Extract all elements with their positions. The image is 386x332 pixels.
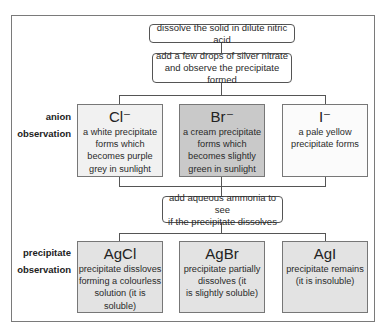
precipitate-desc-line: precipitate remains bbox=[283, 263, 367, 275]
precipitate-symbol: AgI bbox=[283, 245, 367, 263]
step3-line: add aqueous ammonia to see bbox=[163, 192, 282, 216]
anion-desc-line: becomes slightly bbox=[180, 150, 264, 162]
anion-desc-line: a white precipitate bbox=[78, 126, 162, 138]
label-line: observation bbox=[10, 261, 71, 278]
connector-i-top bbox=[325, 95, 326, 104]
anion-desc-line: grey in sunlight bbox=[78, 163, 162, 175]
precipitate-desc-line: forming a colourless bbox=[78, 275, 162, 287]
precipitate-symbol: AgCl bbox=[78, 245, 162, 263]
anion-desc-line: forms which bbox=[180, 138, 264, 150]
precipitate-desc-line: is slightly soluble) bbox=[180, 287, 264, 299]
anion-desc-line: a pale yellow bbox=[283, 126, 367, 138]
precipitate-desc-line: solution (it is soluble) bbox=[78, 287, 162, 311]
precipitate-box-agbr: AgBr precipitate partially dissolves (it… bbox=[179, 241, 265, 313]
anion-observation-label: anion observation bbox=[14, 108, 71, 142]
anion-desc-line: green in sunlight bbox=[180, 163, 264, 175]
label-line: precipitate bbox=[10, 244, 71, 261]
anion-box-bromide: Br⁻ a cream precipitate forms which beco… bbox=[179, 104, 265, 177]
anion-box-chloride: Cl⁻ a white precipitate forms which beco… bbox=[77, 104, 163, 177]
precipitate-desc-line: (it is insoluble) bbox=[283, 275, 367, 287]
step-dissolve-nitric-acid: dissolve the solid in dilute nitric acid bbox=[149, 24, 295, 43]
connector-cl-top bbox=[119, 95, 120, 104]
connector-row2-bar bbox=[119, 233, 326, 234]
step1-text: dissolve the solid in dilute nitric acid bbox=[150, 22, 294, 46]
step-add-aqueous-ammonia: add aqueous ammonia to see if the precip… bbox=[162, 196, 283, 223]
anion-box-iodide: I⁻ a pale yellow precipitate forms bbox=[282, 104, 368, 177]
anion-symbol: Br⁻ bbox=[180, 108, 264, 126]
connector-agcl-top bbox=[119, 233, 120, 241]
anion-symbol: I⁻ bbox=[283, 108, 367, 126]
precipitate-desc-line: precipitate dissloves bbox=[78, 263, 162, 275]
precipitate-box-agcl: AgCl precipitate dissloves forming a col… bbox=[77, 241, 163, 313]
precipitate-desc-line: dissolves (it bbox=[180, 275, 264, 287]
connector-agi-top bbox=[325, 233, 326, 241]
precipitate-observation-label: precipitate observation bbox=[10, 244, 71, 278]
step2-line: and observe the precipitate formed bbox=[153, 62, 291, 86]
step3-line: if the precipitate dissolves bbox=[163, 216, 282, 228]
anion-symbol: Cl⁻ bbox=[78, 108, 162, 126]
anion-desc-line: forms which bbox=[78, 138, 162, 150]
connector-row1-bar bbox=[119, 95, 325, 96]
step2-line: add a few drops of silver nitrate bbox=[153, 50, 291, 62]
connector-row1-bottom-bar bbox=[119, 186, 326, 187]
anion-desc-line: becomes purple bbox=[78, 150, 162, 162]
anion-desc-line: a cream precipitate bbox=[180, 126, 264, 138]
label-line: anion bbox=[14, 108, 71, 125]
step-add-silver-nitrate: add a few drops of silver nitrate and ob… bbox=[152, 53, 292, 83]
anion-desc-line: precipitate forms bbox=[283, 138, 367, 150]
precipitate-desc-line: precipitate partially bbox=[180, 263, 264, 275]
precipitate-box-agi: AgI precipitate remains (it is insoluble… bbox=[282, 241, 368, 313]
label-line: observation bbox=[14, 125, 71, 142]
precipitate-symbol: AgBr bbox=[180, 245, 264, 263]
